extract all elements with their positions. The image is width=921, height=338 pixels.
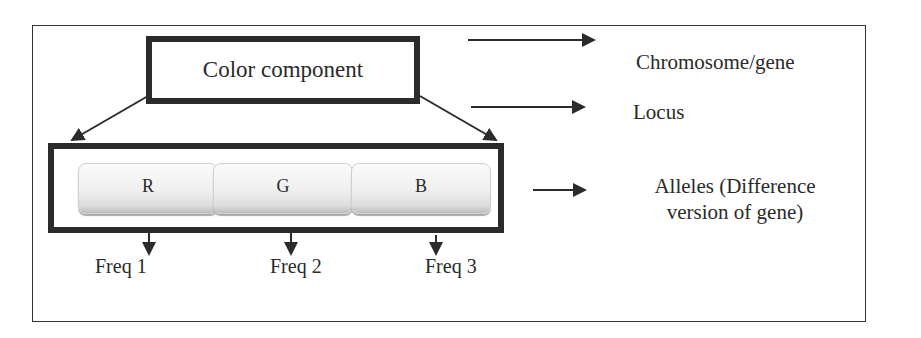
chromosome-gene-label: Chromosome/gene: [636, 50, 795, 75]
color-component-box: Color component: [146, 36, 420, 104]
freq-1-label: Freq 1: [95, 255, 147, 278]
allele-b: B: [351, 163, 491, 214]
locus-label: Locus: [633, 100, 684, 125]
left-diagonal-arrow: [72, 96, 148, 140]
locus-box: R G B: [48, 143, 504, 233]
allele-r-label: R: [142, 176, 154, 197]
alleles-label-line1: Alleles (Difference: [620, 173, 850, 199]
color-component-label: Color component: [203, 57, 363, 83]
freq-2-label: Freq 2: [270, 255, 322, 278]
freq-3-label: Freq 3: [425, 255, 477, 278]
alleles-label: Alleles (Difference version of gene): [620, 173, 850, 225]
allele-r: R: [78, 163, 218, 214]
right-diagonal-arrow: [420, 96, 496, 140]
alleles-label-line2: version of gene): [620, 199, 850, 225]
allele-g-label: G: [277, 176, 290, 197]
allele-g: G: [213, 163, 353, 214]
allele-b-label: B: [415, 176, 427, 197]
